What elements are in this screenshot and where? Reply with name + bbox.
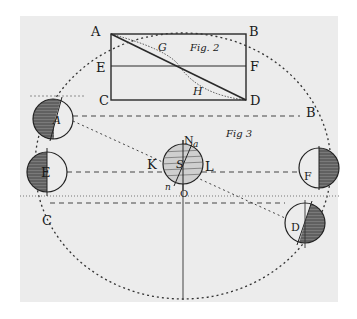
fig3-label-C: C (42, 214, 52, 227)
sun-label-n: n (165, 183, 171, 192)
fig3-label-D: D (291, 222, 300, 233)
fig2-label-H: H (193, 86, 203, 97)
fig3-caption: Fig 3 (226, 129, 252, 139)
sun-label-L: L (205, 160, 214, 173)
fig2-rectangle (111, 34, 246, 100)
sun-label-O: O (180, 189, 188, 199)
fig2-label-G: G (158, 42, 167, 53)
sun-label-a: a (193, 140, 198, 149)
fig3-label-B: B (306, 106, 316, 119)
fig2-label-B: B (249, 25, 259, 38)
fig2-caption: Fig. 2 (190, 43, 219, 53)
fig3-label-F: F (304, 171, 312, 182)
fig2-label-E: E (96, 61, 106, 74)
sun-label-S: S (176, 159, 184, 170)
fig2-label-C: C (99, 94, 109, 107)
fig3-label-A: A (53, 115, 61, 126)
fig2-label-F: F (250, 60, 259, 73)
fig2-label-D: D (250, 94, 260, 107)
fig3-label-E: E (41, 166, 51, 179)
globe-A (30, 95, 73, 145)
fig2-label-A: A (91, 25, 100, 38)
globe-F (299, 146, 341, 191)
sun-label-K: K (147, 158, 157, 171)
